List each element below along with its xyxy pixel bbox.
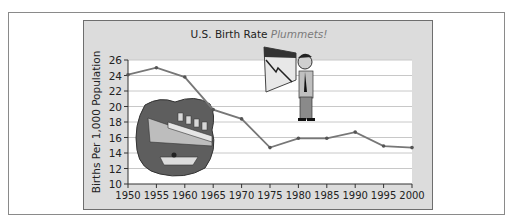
x-tick-label: 1955 bbox=[144, 190, 169, 201]
data-point bbox=[297, 136, 301, 140]
y-tick-label: 26 bbox=[109, 54, 123, 66]
x-tick-label: 1985 bbox=[314, 190, 339, 201]
y-tick-label: 16 bbox=[109, 132, 123, 144]
sinking-ship-illustration bbox=[136, 98, 214, 176]
data-point bbox=[211, 108, 215, 112]
data-point bbox=[325, 136, 329, 140]
x-tick-label: 1950 bbox=[115, 190, 140, 201]
data-point bbox=[353, 130, 357, 134]
data-point bbox=[382, 144, 386, 148]
data-point bbox=[240, 117, 244, 121]
x-tick-label: 2000 bbox=[399, 190, 424, 201]
y-axis-label: Births Per 1,000 Population bbox=[90, 51, 102, 194]
x-tick-label: 1965 bbox=[200, 190, 225, 201]
x-tick-label: 1960 bbox=[172, 190, 197, 201]
line-chart: 1012141618202224261950195519601965197019… bbox=[0, 0, 513, 223]
x-tick-label: 1995 bbox=[371, 190, 396, 201]
data-point bbox=[268, 146, 272, 150]
x-tick-label: 1990 bbox=[342, 190, 367, 201]
y-tick-label: 18 bbox=[109, 116, 122, 128]
x-tick-label: 1970 bbox=[229, 190, 254, 201]
y-tick-label: 14 bbox=[109, 147, 123, 159]
data-point bbox=[410, 146, 414, 150]
y-tick-label: 10 bbox=[109, 178, 122, 190]
x-tick-label: 1975 bbox=[257, 190, 282, 201]
data-point bbox=[155, 66, 159, 70]
y-tick-label: 12 bbox=[109, 163, 122, 175]
y-tick-label: 20 bbox=[109, 101, 122, 113]
data-point bbox=[126, 73, 130, 77]
y-tick-label: 22 bbox=[109, 85, 122, 97]
x-tick-label: 1980 bbox=[286, 190, 311, 201]
y-tick-label: 24 bbox=[109, 70, 123, 82]
data-point bbox=[183, 75, 187, 79]
